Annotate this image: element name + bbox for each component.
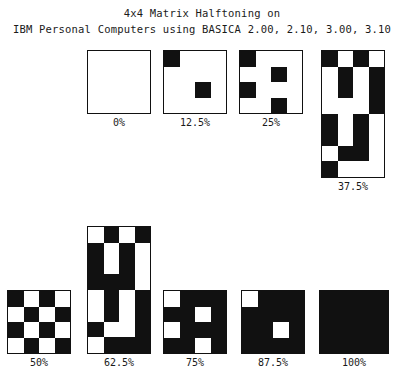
halftone-cell <box>369 146 385 162</box>
halftone-cell <box>119 243 135 259</box>
page-title: 4x4 Matrix Halftoning on IBM Personal Co… <box>0 5 404 37</box>
halftone-cell <box>104 306 120 322</box>
halftone-cell <box>256 51 272 67</box>
halftone-cell <box>8 338 24 354</box>
halftone-cell <box>135 243 151 259</box>
halftone-cell <box>164 307 180 323</box>
halftone-cell <box>338 130 354 146</box>
halftone-cell <box>369 51 385 67</box>
halftone-cell <box>119 67 135 83</box>
halftone-cell <box>242 322 258 338</box>
halftone-swatch-label: 37.5% <box>321 180 385 193</box>
halftone-cell <box>289 291 305 307</box>
halftone-cell <box>39 291 55 307</box>
halftone-cell <box>180 291 196 307</box>
halftone-cell <box>353 130 369 146</box>
halftone-cell <box>287 51 303 67</box>
halftone-cell <box>369 114 385 130</box>
halftone-cell <box>88 67 104 83</box>
halftone-cell <box>211 82 227 98</box>
halftone-cell <box>119 290 135 306</box>
halftone-cell <box>211 338 227 354</box>
halftone-cell <box>119 82 135 98</box>
halftone-swatch <box>241 290 305 354</box>
halftone-pattern-grid <box>7 290 71 354</box>
halftone-cell <box>353 98 369 114</box>
halftone-cell <box>195 307 211 323</box>
halftone-swatch <box>239 50 303 114</box>
halftone-pattern-grid <box>239 50 303 114</box>
halftone-cell <box>88 98 104 114</box>
halftone-cell <box>289 307 305 323</box>
page-title-line-2: IBM Personal Computers using BASICA 2.00… <box>0 21 404 37</box>
halftone-cell <box>258 338 274 354</box>
halftone-cell <box>322 130 338 146</box>
halftone-cell <box>135 274 151 290</box>
halftone-cell <box>240 51 256 67</box>
halftone-cell <box>353 83 369 99</box>
halftone-cell <box>119 322 135 338</box>
halftone-cell <box>24 291 40 307</box>
halftone-cell <box>353 51 369 67</box>
halftone-cell <box>164 338 180 354</box>
halftone-cell <box>195 322 211 338</box>
halftone-cell <box>104 67 120 83</box>
halftone-cell <box>242 338 258 354</box>
halftone-cell <box>242 291 258 307</box>
halftone-cell <box>135 67 151 83</box>
halftone-cell <box>287 67 303 83</box>
halftone-swatch-label: 75% <box>163 356 227 369</box>
halftone-cell <box>195 291 211 307</box>
halftone-cell <box>8 291 24 307</box>
halftone-cell <box>180 307 196 323</box>
halftone-cell <box>338 146 354 162</box>
halftone-swatch-label: 62.5% <box>87 356 151 369</box>
halftone-cell <box>164 98 180 114</box>
halftone-cell <box>88 322 104 338</box>
halftone-cell <box>24 322 40 338</box>
halftone-cell <box>338 67 354 83</box>
halftone-cell <box>271 51 287 67</box>
halftone-cell <box>119 306 135 322</box>
halftone-cell <box>258 307 274 323</box>
halftone-pattern-grid <box>87 50 151 114</box>
halftone-cell <box>119 337 135 353</box>
halftone-cell <box>271 82 287 98</box>
halftone-pattern-grid <box>241 290 305 354</box>
halftone-cell <box>88 227 104 243</box>
halftone-cell <box>258 322 274 338</box>
halftone-cell <box>369 130 385 146</box>
halftone-cell <box>104 259 120 275</box>
halftone-cell <box>135 82 151 98</box>
halftone-cell <box>180 82 196 98</box>
halftone-cell <box>88 243 104 259</box>
halftone-cell <box>322 51 338 67</box>
halftone-cell <box>39 322 55 338</box>
halftone-pattern-grid <box>321 50 385 178</box>
halftone-cell <box>88 82 104 98</box>
halftone-cell <box>88 306 104 322</box>
halftone-cell <box>353 114 369 130</box>
halftone-cell <box>88 274 104 290</box>
halftone-cell <box>322 83 338 99</box>
halftone-cell <box>369 161 385 177</box>
halftone-cell <box>353 146 369 162</box>
halftone-cell <box>322 161 338 177</box>
halftone-swatch-label: 0% <box>87 116 151 129</box>
halftone-cell <box>322 114 338 130</box>
halftone-swatch <box>87 226 151 354</box>
halftone-cell <box>322 98 338 114</box>
halftone-cell <box>322 146 338 162</box>
halftone-cell <box>24 307 40 323</box>
halftone-cell <box>240 98 256 114</box>
halftone-cell <box>211 98 227 114</box>
halftone-cell <box>353 67 369 83</box>
halftone-cell <box>8 322 24 338</box>
halftone-cell <box>289 322 305 338</box>
halftone-cell <box>273 291 289 307</box>
halftone-pattern-grid <box>163 50 227 114</box>
halftone-cell <box>271 98 287 114</box>
halftone-cell <box>240 82 256 98</box>
halftone-swatch-label: 100% <box>319 356 389 369</box>
halftone-cell <box>119 274 135 290</box>
